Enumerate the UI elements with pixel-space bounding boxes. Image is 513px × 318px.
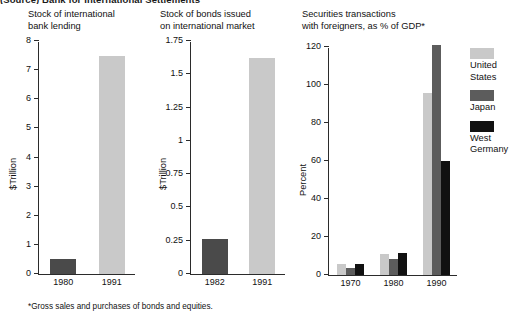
y-tick-label-bonds-issued-5: 1.25 (165, 102, 183, 112)
y-tick-securities-transactions-3: 60 (324, 160, 329, 161)
bar-securities-transactions-1990-united-states (423, 93, 432, 275)
y-tick-bonds-issued-0: 0 (186, 273, 191, 274)
chart-panel-bank-lending: Stock of international bank lending $Tri… (0, 0, 152, 318)
chart-title-bonds-issued: Stock of bonds issued on international m… (160, 9, 255, 32)
y-tick-bonds-issued-2: 0.5 (186, 206, 191, 207)
legend-securities-transactions: United StatesJapanWest Germany (470, 48, 513, 163)
bar-securities-transactions-1970-west-germany (355, 264, 364, 275)
y-tick-bank-lending-3: 3 (34, 186, 39, 187)
y-tick-label-bank-lending-7: 7 (26, 64, 31, 74)
y-tick-label-bonds-issued-7: 1.75 (165, 35, 183, 45)
y-tick-securities-transactions-4: 80 (324, 122, 329, 123)
y-tick-label-securities-transactions-3: 60 (311, 155, 321, 165)
legend-swatch-icon-japan (470, 90, 494, 101)
y-tick-label-bonds-issued-0: 0 (178, 268, 183, 278)
y-tick-label-bank-lending-1: 1 (26, 239, 31, 249)
bar-bank-lending-1991: 1991 (99, 56, 125, 274)
bar-securities-transactions-1980-west-germany (398, 253, 407, 275)
y-tick-label-bank-lending-3: 3 (26, 181, 31, 191)
x-tick-label-securities-transactions-1990: 1990 (426, 278, 446, 288)
y-tick-label-securities-transactions-0: 0 (316, 269, 321, 279)
x-tick-label-securities-transactions-1970: 1970 (340, 278, 360, 288)
plot-area-bank-lending: 01234567819801991 (38, 42, 135, 275)
y-tick-bank-lending-7: 7 (34, 69, 39, 70)
legend-item-united-states[interactable]: United States (470, 48, 513, 83)
y-tick-label-bank-lending-6: 6 (26, 93, 31, 103)
y-axis-label-securities-transactions: Percent (298, 164, 308, 196)
y-tick-bonds-issued-3: 0.75 (186, 173, 191, 174)
legend-item-japan[interactable]: Japan (470, 90, 513, 114)
y-tick-label-securities-transactions-4: 80 (311, 117, 321, 127)
y-tick-label-bank-lending-4: 4 (26, 152, 31, 162)
y-tick-label-bonds-issued-2: 0.5 (170, 201, 183, 211)
y-tick-bonds-issued-4: 1 (186, 140, 191, 141)
footnote: *Gross sales and purchases of bonds and … (28, 302, 213, 311)
y-tick-securities-transactions-2: 40 (324, 198, 329, 199)
legend-item-west-germany[interactable]: West Germany (470, 121, 513, 156)
bar-securities-transactions-1990-japan (432, 45, 441, 275)
y-tick-label-bank-lending-5: 5 (26, 122, 31, 132)
y-tick-label-securities-transactions-2: 40 (311, 193, 321, 203)
y-tick-bonds-issued-5: 1.25 (186, 107, 191, 108)
x-tick-label-bonds-issued-1982: 1982 (205, 277, 225, 287)
y-tick-securities-transactions-0: 0 (324, 274, 329, 275)
y-tick-bonds-issued-1: 0.25 (186, 240, 191, 241)
chart-title-bank-lending: Stock of international bank lending (28, 9, 115, 32)
y-tick-bank-lending-6: 6 (34, 98, 39, 99)
x-tick-label-bank-lending-1980: 1980 (53, 277, 73, 287)
bar-securities-transactions-1970-japan (346, 268, 355, 275)
y-tick-securities-transactions-1: 20 (324, 236, 329, 237)
y-tick-bank-lending-4: 4 (34, 157, 39, 158)
y-tick-label-securities-transactions-5: 100 (306, 79, 321, 89)
y-tick-label-securities-transactions-1: 20 (311, 231, 321, 241)
y-tick-bank-lending-0: 0 (34, 273, 39, 274)
bar-securities-transactions-1980-japan (389, 259, 398, 275)
x-tick-label-bonds-issued-1991: 1991 (252, 277, 272, 287)
y-tick-bank-lending-8: 8 (34, 40, 39, 41)
chart-panel-securities-transactions: Securities transactions with foreigners,… (292, 0, 504, 318)
bar-securities-transactions-1970-united-states (337, 264, 346, 275)
legend-swatch-icon-west-germany (470, 121, 494, 132)
legend-label-west-germany: West Germany (470, 133, 513, 156)
y-tick-label-bonds-issued-1: 0.25 (165, 235, 183, 245)
chart-title-securities-transactions: Securities transactions with foreigners,… (302, 9, 425, 32)
y-tick-bank-lending-2: 2 (34, 215, 39, 216)
y-tick-label-bonds-issued-4: 1 (178, 135, 183, 145)
y-tick-bonds-issued-7: 1.75 (186, 40, 191, 41)
y-tick-label-securities-transactions-6: 120 (306, 41, 321, 51)
y-tick-label-bank-lending-0: 0 (26, 268, 31, 278)
bar-bonds-issued-1991: 1991 (249, 58, 275, 274)
y-tick-label-bonds-issued-6: 1.5 (170, 68, 183, 78)
y-tick-bank-lending-1: 1 (34, 244, 39, 245)
plot-area-securities-transactions: 020406080100120197019801990 (328, 48, 457, 276)
legend-label-japan: Japan (470, 102, 513, 114)
plot-area-bonds-issued: 00.250.50.7511.251.51.7519821991 (190, 42, 285, 275)
chart-panel-bonds-issued: Stock of bonds issued on international m… (152, 0, 292, 318)
x-tick-label-bank-lending-1991: 1991 (102, 277, 122, 287)
y-tick-bonds-issued-6: 1.5 (186, 73, 191, 74)
y-tick-bank-lending-5: 5 (34, 127, 39, 128)
legend-label-united-states: United States (470, 60, 513, 83)
y-tick-securities-transactions-5: 100 (324, 84, 329, 85)
y-axis-label-bank-lending: $Trillion (8, 158, 18, 190)
bar-bank-lending-1980: 1980 (50, 259, 76, 274)
y-tick-label-bonds-issued-3: 0.75 (165, 168, 183, 178)
bar-bonds-issued-1982: 1982 (202, 239, 228, 274)
y-tick-label-bank-lending-8: 8 (26, 35, 31, 45)
x-tick-label-securities-transactions-1980: 1980 (383, 278, 403, 288)
legend-swatch-icon-united-states (470, 48, 494, 59)
y-tick-label-bank-lending-2: 2 (26, 210, 31, 220)
y-tick-securities-transactions-6: 120 (324, 46, 329, 47)
bar-securities-transactions-1990-west-germany (441, 161, 450, 275)
bar-securities-transactions-1980-united-states (380, 254, 389, 275)
